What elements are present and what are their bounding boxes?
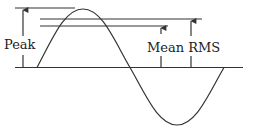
waveform-diagram: Peak Mean RMS: [0, 0, 253, 135]
mean-rms-label: Mean RMS: [147, 40, 220, 55]
peak-label: Peak: [4, 37, 36, 52]
